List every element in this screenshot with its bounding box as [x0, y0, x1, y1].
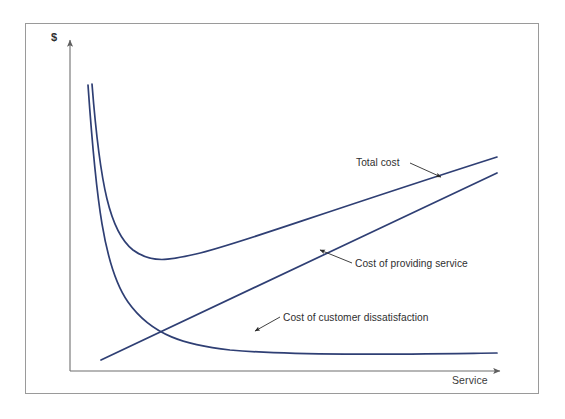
leader-line-customer-dissatisfaction — [255, 317, 280, 331]
chart-plot-area — [0, 0, 565, 419]
annotation-total-cost: Total cost — [356, 157, 400, 168]
series-curve-total-cost — [92, 84, 497, 260]
x-axis-label: Service — [452, 374, 488, 386]
leader-line-providing-service — [320, 250, 352, 263]
y-axis-label: $ — [51, 31, 57, 43]
annotation-cost-of-providing-service: Cost of providing service — [355, 258, 468, 269]
leader-line-total-cost — [410, 163, 441, 177]
annotation-cost-of-customer-dissatisfaction: Cost of customer dissatisfaction — [283, 312, 428, 323]
chart-figure: $ Service Total cost Cost of providing s… — [0, 0, 565, 419]
